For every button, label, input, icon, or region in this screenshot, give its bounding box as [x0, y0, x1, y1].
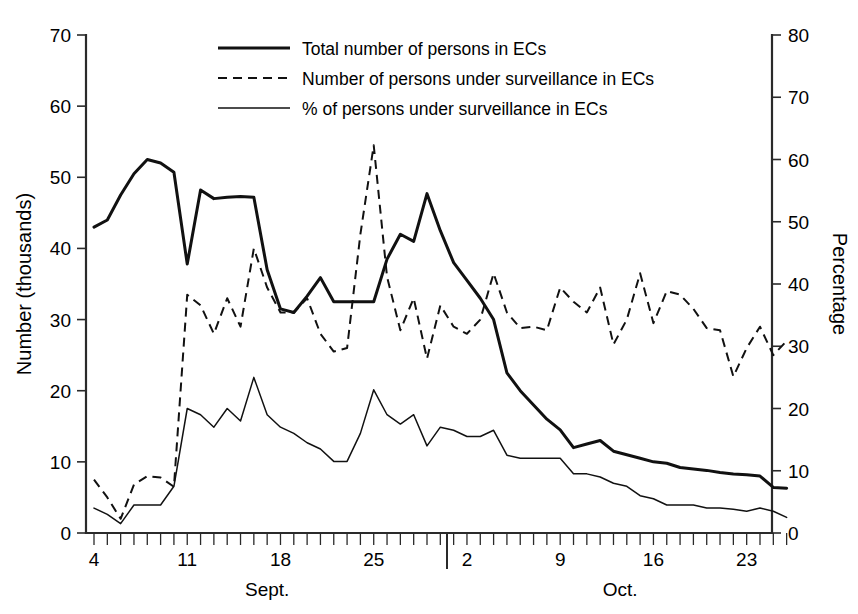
legend-label-surveillance: Number of persons under surveillance in …: [302, 69, 654, 89]
x-axis-tick-label: 4: [89, 549, 100, 570]
chart-legend: Total number of persons in ECs Number of…: [218, 39, 654, 119]
left-axis-tick-label: 30: [50, 310, 71, 331]
month-label-sept: Sept.: [245, 579, 289, 600]
x-axis-tick-label: 2: [462, 549, 473, 570]
left-axis-ticks: 010203040506070: [50, 25, 86, 544]
left-axis-tick-label: 70: [50, 25, 71, 46]
x-axis-tick-label: 16: [643, 549, 664, 570]
left-axis-tick-label: 0: [60, 523, 71, 544]
x-axis-tick-label: 25: [363, 549, 384, 570]
left-axis-tick-label: 10: [50, 452, 71, 473]
x-axis-tick-label: 11: [177, 549, 197, 570]
series-line-percent: [94, 377, 787, 523]
right-axis-tick-label: 0: [788, 523, 799, 544]
right-axis-tick-label: 60: [788, 150, 809, 171]
right-axis-tick-label: 70: [788, 87, 809, 108]
right-axis-tick-label: 20: [788, 399, 809, 420]
x-axis-tick-label: 23: [736, 549, 757, 570]
right-axis-tick-label: 50: [788, 212, 809, 233]
right-axis-tick-label: 80: [788, 25, 809, 46]
x-axis-tick-label: 9: [555, 549, 566, 570]
left-axis-tick-label: 20: [50, 381, 71, 402]
x-axis-ticks: [94, 533, 787, 545]
legend-label-total: Total number of persons in ECs: [302, 39, 546, 59]
right-axis-tick-label: 30: [788, 336, 809, 357]
y2-axis-title: Percentage: [829, 233, 851, 335]
y-axis-title: Number (thousands): [13, 193, 35, 375]
month-label-oct: Oct.: [603, 579, 638, 600]
series-group: [94, 145, 787, 523]
left-axis-tick-label: 50: [50, 167, 71, 188]
right-axis-tick-label: 40: [788, 274, 809, 295]
line-chart-figure: 010203040506070 01020304050607080 411182…: [0, 0, 858, 614]
legend-label-percent: % of persons under surveillance in ECs: [302, 99, 608, 119]
x-axis-tick-labels: 4111825291623: [89, 549, 758, 570]
x-axis-tick-label: 18: [270, 549, 291, 570]
left-axis-tick-label: 60: [50, 96, 71, 117]
right-axis-tick-label: 10: [788, 461, 809, 482]
left-axis-tick-label: 40: [50, 238, 71, 259]
right-axis-ticks: 01020304050607080: [772, 25, 809, 544]
series-line-total: [94, 160, 787, 489]
chart-container: 010203040506070 01020304050607080 411182…: [0, 0, 858, 614]
